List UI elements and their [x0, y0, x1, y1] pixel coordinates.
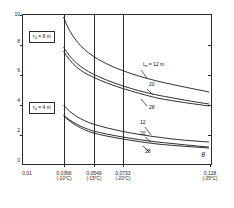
y-tick-label-0: 0 [8, 158, 20, 163]
annotation-r0-8m-value: = 8 m [38, 33, 51, 39]
x-tick-label-0_0733: 0,0733 (-20°C) [107, 170, 139, 182]
x-tick-label-0_01: 0,01 [12, 170, 42, 176]
y-tick-label-8: 8 [8, 39, 20, 44]
leader-upper-20 [147, 89, 153, 95]
curve-label-upper-lm28: 28 [149, 105, 155, 110]
curve-label-lower-lm28: 28 [145, 149, 151, 154]
x-tick-label-0_0366: 0,0366 (-10°C) [48, 170, 80, 182]
annotation-r0-4m: r0 = 4 m [29, 102, 55, 114]
x-tick-sublabel-0_128: (-35°C) [194, 176, 226, 182]
curve-r8-lm12 [64, 17, 210, 92]
x-tick-label-0_128: 0,128 (-35°C) [194, 170, 226, 182]
curve-label-upper-lm12-value: = 12 m [149, 61, 164, 67]
curve-label-upper-lm12: lm = 12 m [143, 62, 164, 68]
annotation-r0-4m-value: = 4 m [38, 104, 51, 110]
x-tick-label-0_01-value: 0,01 [22, 170, 32, 176]
y-tick-label-6: 6 [8, 68, 20, 73]
x-tickmark-0_0366 [64, 164, 65, 167]
x-tick-sublabel-0_0549: (-15°C) [78, 176, 110, 182]
curve-r4-lm12 [64, 105, 210, 142]
leader-upper-28 [141, 99, 147, 106]
curve-label-lower-lm12: 12 [140, 120, 146, 125]
y-tick-label-4: 4 [8, 98, 20, 103]
x-tickmark-0_128 [210, 164, 211, 167]
y-tick-label-2: 2 [8, 128, 20, 133]
x-tickmark-0_0733 [123, 164, 124, 167]
x-tick-label-0_0549: 0,0549 (-15°C) [78, 170, 110, 182]
annotation-r0-8m: r0 = 8 m [29, 31, 55, 43]
x-tick-sublabel-0_0733: (-20°C) [107, 176, 139, 182]
x-tickmark-0_0549 [94, 164, 95, 167]
x-tick-sublabel-0_0366: (-10°C) [48, 176, 80, 182]
curve-label-upper-lm20: 20 [149, 82, 155, 87]
y-tick-label-10: 10 [8, 12, 20, 17]
figure: s1 T0' [‰] 10 8 6 4 2 0 [0, 0, 234, 208]
curve-label-lower-lm20: 20 [140, 131, 146, 136]
x-axis-symbol-theta: θ [201, 151, 205, 158]
curve-label-upper-lm12-symbol: lm [143, 61, 147, 67]
curve-r4-lm20 [64, 115, 210, 147]
curve-r8-lm28 [64, 51, 210, 106]
